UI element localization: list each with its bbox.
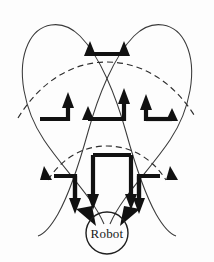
lower-left-tip-arrowhead: [40, 166, 52, 180]
outer-dashed-arc: [18, 62, 196, 118]
robot-sensor-field-diagram: Robot: [0, 0, 214, 262]
robot-node: Robot: [86, 212, 128, 254]
mid-center-left-arrowhead: [82, 106, 94, 120]
robot-label: Robot: [91, 226, 124, 241]
robot-inflow-right-arrowhead: [120, 206, 140, 226]
mid-center-right-arrowhead: [118, 88, 130, 104]
right-petal: [38, 25, 192, 236]
left-petal: [22, 25, 176, 236]
top-double-arrow: [84, 41, 130, 56]
mid-center-right-arrow: [118, 88, 130, 121]
mid-right-up-arrowhead: [140, 94, 152, 110]
mid-right-arrowhead: [166, 108, 178, 121]
mid-center-left-arrow: [82, 106, 124, 120]
mid-left-arrow: [40, 92, 74, 119]
petal-group: [22, 25, 191, 236]
lower-right-tip-arrowhead: [166, 166, 178, 180]
middle-row-arrows: [40, 88, 178, 121]
mid-left-arrowhead: [62, 92, 74, 108]
